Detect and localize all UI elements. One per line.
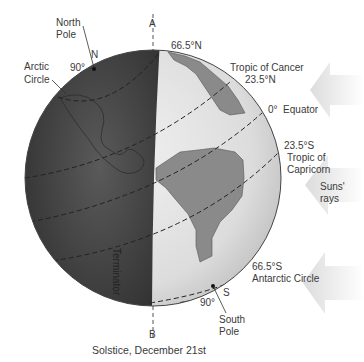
solstice-diagram xyxy=(0,0,364,362)
south-pole-label-line2: Pole xyxy=(219,326,239,337)
sun-rays-line2: rays xyxy=(320,193,339,204)
north-pole-label-line2: Pole xyxy=(56,29,76,40)
tropic-capricorn-latitude: 23.5°S xyxy=(284,140,314,151)
tropic-cancer-name: Tropic of Cancer xyxy=(230,62,304,73)
tropic-cancer-latitude: 23.5°N xyxy=(245,74,276,85)
tropic-capricorn-line1: Tropic of xyxy=(287,152,326,163)
south-pole-letter: S xyxy=(223,287,230,298)
diagram-title: Solstice, December 21st xyxy=(92,345,206,356)
antarctic-circle-latitude: 66.5°S xyxy=(252,261,282,272)
arctic-circle-latitude: 66.5°N xyxy=(171,40,202,51)
equator-label: 0° Equator xyxy=(268,104,318,115)
north-pole-degrees: 90° xyxy=(70,62,85,73)
terminator-label: Terminator xyxy=(111,248,122,295)
south-pole-degrees: 90° xyxy=(200,297,215,308)
south-pole-label-line1: South xyxy=(219,314,245,325)
tropic-capricorn-line2: Capricorn xyxy=(287,164,330,175)
arctic-circle-label-line2: Circle xyxy=(24,74,50,85)
north-pole-label-line1: North xyxy=(56,17,80,28)
antarctic-circle-name: Antarctic Circle xyxy=(252,273,319,284)
axis-label-b: B xyxy=(149,329,156,340)
south-pole-dot xyxy=(211,284,215,288)
north-pole-dot xyxy=(92,67,96,71)
axis-label-a: A xyxy=(149,18,156,29)
arctic-circle-label-line1: Arctic xyxy=(24,61,49,72)
north-pole-letter: N xyxy=(91,49,98,60)
sun-rays-line1: Suns' xyxy=(320,181,345,192)
